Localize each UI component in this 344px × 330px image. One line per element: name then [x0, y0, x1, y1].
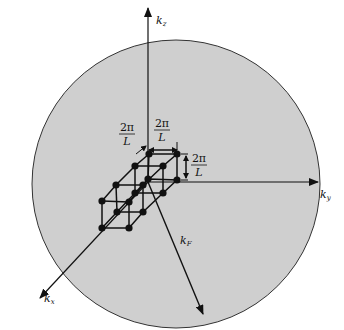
kz-label: kz — [156, 14, 167, 28]
fermi-sphere-diagram: kz ky kx kF — [0, 0, 344, 330]
svg-text:L: L — [194, 166, 202, 179]
svg-text:2π: 2π — [192, 152, 206, 165]
ky-label: ky — [320, 188, 332, 202]
svg-text:2π: 2π — [120, 121, 134, 134]
svg-text:L: L — [122, 135, 130, 148]
fermi-sphere — [32, 40, 320, 328]
svg-text:2π: 2π — [155, 117, 169, 130]
kx-label: kx — [44, 292, 55, 306]
svg-text:L: L — [157, 131, 165, 144]
